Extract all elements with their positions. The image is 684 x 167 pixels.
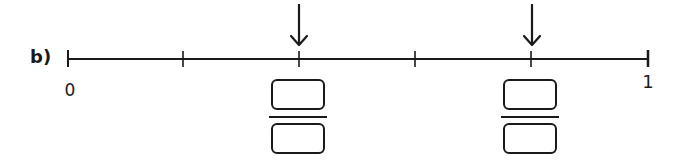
numerator-input[interactable] [271,79,325,110]
down-arrow-icon [291,4,307,45]
number-line [0,0,684,167]
fraction-bar [269,116,327,118]
denominator-input[interactable] [271,123,325,154]
fraction-bar [501,116,559,118]
down-arrow-icon [524,4,540,45]
numerator-input[interactable] [503,79,557,110]
denominator-input[interactable] [503,123,557,154]
start-label: 0 [65,80,76,100]
end-label: 1 [642,72,653,92]
